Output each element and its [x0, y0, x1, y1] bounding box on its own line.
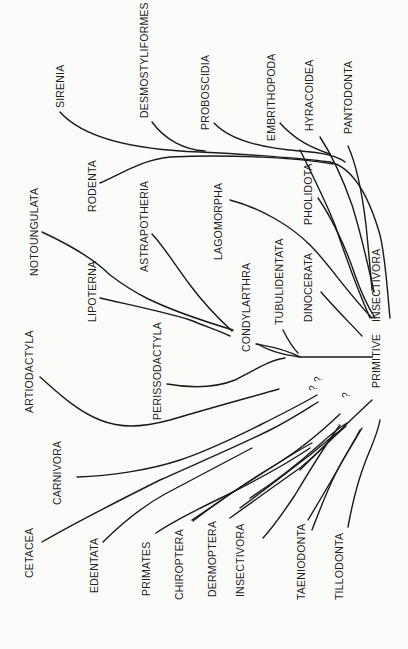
label-pantodonta: PANTODONTA — [342, 61, 354, 134]
label-primitive: PRIMITIVE — [370, 334, 382, 388]
branch-lipoterna — [100, 298, 230, 336]
label-embrithopoda: EMBRITHOPODA — [265, 53, 277, 141]
label-chiroptera: CHIROPTERA — [173, 529, 185, 600]
label-perissodactyla: PERISSODACTYLA — [151, 322, 163, 420]
branch-dinocerata — [321, 292, 362, 336]
label-artiodactyla: ARTIODACTYLA — [23, 330, 35, 413]
label-proboscidia: PROBOSCIDIA — [199, 55, 211, 130]
branch-carnivora — [77, 395, 317, 477]
label-sirenia: SIRENIA — [54, 65, 66, 108]
label-edentata: EDENTATA — [88, 538, 100, 593]
label-cetacea: CETACEA — [23, 528, 35, 578]
phylogeny-diagram: SIRENIA DESMOSTYLIFORMES PROBOSCIDIA EMB… — [0, 0, 408, 649]
label-primitive-insectivora: INSECTIVORA — [370, 249, 382, 322]
trunk-main — [258, 344, 372, 357]
branch-sirenia — [60, 112, 390, 318]
label-condylarthra: CONDYLARTHRA — [240, 263, 252, 352]
question-mark-3: ? — [341, 392, 352, 398]
branch-insectivora-2 — [250, 423, 347, 498]
label-tubulidentata: TUBULIDENTATA — [273, 238, 285, 325]
branch-taeniodonta-2 — [308, 428, 362, 520]
label-rodenta: RODENTA — [86, 160, 98, 212]
branch-perissodactyla — [167, 358, 285, 387]
label-hyracoidea: HYRACOIDEA — [303, 60, 315, 131]
question-mark-1: ? — [313, 376, 324, 382]
branch-to-primitive-lower — [300, 400, 372, 470]
branch-tubulidentata — [283, 330, 298, 353]
label-desmostyliformes: DESMOSTYLIFORMES — [138, 2, 150, 118]
label-notoungulata: NOTOUNGULATA — [28, 188, 40, 276]
branch-tillodonta-long — [348, 420, 380, 527]
label-tillodonta: TILLODONTA — [333, 533, 345, 600]
label-lagomorpha: LAGOMORPHA — [212, 183, 224, 260]
question-mark-2: ? — [308, 385, 319, 391]
branch-rodenta — [100, 156, 333, 183]
label-astrapotheria: ASTRAPOTHERIA — [138, 181, 150, 272]
branch-condylarthra-stem — [256, 344, 300, 357]
label-insectivora: INSECTIVORA — [234, 524, 246, 597]
label-dermoptera: DERMOPTERA — [206, 521, 218, 597]
label-taeniodonta: TAENIODONTA — [295, 524, 307, 600]
label-pholidota: PHOLIDOTA — [302, 163, 314, 225]
label-carnivora: CARNIVORA — [51, 441, 63, 505]
uncertain-marks: ? ? ? — [308, 376, 352, 398]
branch-desmostyliformes — [152, 122, 205, 151]
label-lipoterna: LIPOTERNA — [86, 261, 98, 322]
label-dinocerata: DINOCERATA — [302, 253, 314, 322]
label-primates: PRIMATES — [140, 542, 152, 597]
phylogeny-tree: SIRENIA DESMOSTYLIFORMES PROBOSCIDIA EMB… — [0, 0, 408, 649]
